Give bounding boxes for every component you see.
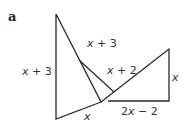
label-inner-segment: x + 2 <box>106 64 137 77</box>
left-triangle <box>56 14 101 119</box>
label-bottom-right: 2x − 2 <box>121 105 158 118</box>
geometry-diagram: a x + 3 x + 3 x + 2 x x 2x − 2 <box>0 0 186 128</box>
label-bottom-left: x <box>83 110 91 123</box>
label-top-hypotenuse: x + 3 <box>86 37 117 50</box>
label-right-side: x <box>171 71 179 84</box>
part-label: a <box>8 9 17 24</box>
label-left-side: x + 3 <box>21 65 52 78</box>
